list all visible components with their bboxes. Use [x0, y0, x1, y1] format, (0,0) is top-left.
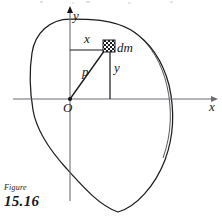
mass-element-marker	[103, 40, 115, 52]
lamina-outline-group	[30, 19, 172, 212]
figure-container: y x O x y p dm Figure 15.16	[0, 0, 222, 220]
mass-element-label: dm	[117, 41, 133, 54]
figure-caption-number: 15.16	[4, 193, 39, 210]
x-axis-group	[13, 96, 218, 102]
origin-label: O	[63, 101, 72, 114]
figure-caption-word: Figure	[4, 184, 39, 193]
x-axis-label: x	[209, 100, 215, 113]
figure-caption: Figure 15.16	[4, 184, 39, 210]
y-axis-label: y	[73, 9, 79, 22]
vertical-distance-label: y	[114, 61, 120, 74]
lamina-outline	[30, 19, 172, 212]
scan-artifact-noise	[0, 0, 222, 6]
lamina-outline-inner-edge	[133, 31, 170, 158]
horizontal-distance-label: x	[84, 32, 90, 45]
radius-label: p	[82, 65, 89, 78]
mass-element-hatch-square	[103, 40, 115, 52]
